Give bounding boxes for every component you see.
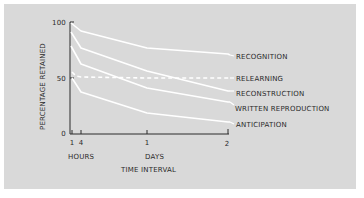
x-tick-label-1d: 1	[145, 139, 150, 147]
series-label-anticipation: ANTICIPATION	[236, 121, 287, 129]
series-label-recognition: RECOGNITION	[236, 53, 288, 61]
x-axis-title: TIME INTERVAL	[120, 166, 176, 174]
series-label-relearning: RELEARNING	[236, 75, 283, 83]
x-unit-days: DAYS	[145, 153, 164, 161]
x-tick-label-2d: 2	[225, 140, 230, 148]
y-tick-label-100: 100	[52, 19, 66, 27]
series-lines	[71, 23, 230, 122]
line-written-reproduction	[71, 46, 230, 102]
series-label-written-reproduction: WRITTEN REPRODUCTION	[235, 105, 330, 113]
y-tick-label-0: 0	[61, 130, 66, 138]
x-tick-label-4h: 4	[79, 139, 84, 147]
leader-lines	[230, 55, 234, 124]
x-unit-hours: HOURS	[68, 153, 95, 161]
x-tick-label-1h: 1	[70, 139, 75, 147]
series-label-reconstruction: RECONSTRUCTION	[236, 90, 304, 98]
line-relearning	[72, 72, 230, 78]
line-reconstruction	[71, 32, 230, 91]
retention-chart: 100 50 0 1 4 1 2 HOURS DAYS TIME INTERVA…	[0, 0, 364, 198]
y-tick-label-50: 50	[57, 75, 66, 83]
line-anticipation	[72, 78, 230, 122]
y-axis-title: PERCENTAGE RETAINED	[39, 43, 47, 130]
line-recognition	[71, 23, 230, 55]
